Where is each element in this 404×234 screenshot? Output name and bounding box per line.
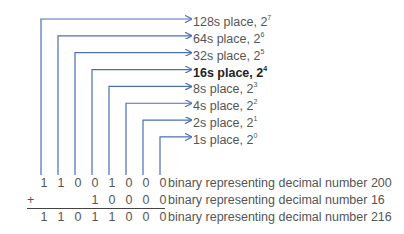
connector-arrow — [92, 70, 191, 175]
place-label: 1s place, 20 — [193, 130, 257, 147]
place-name: 2s place, 2 — [193, 116, 253, 130]
binary-digit: 0 — [90, 176, 100, 190]
binary-digit: 1 — [107, 176, 117, 190]
place-name: 1s place, 2 — [193, 133, 253, 147]
connector-arrow — [41, 19, 191, 175]
place-label: 2s place, 21 — [193, 113, 257, 130]
binary-digit: 0 — [158, 193, 168, 207]
binary-digit: 1 — [39, 176, 49, 190]
place-exponent: 0 — [253, 132, 257, 139]
binary-digit: 0 — [124, 210, 134, 224]
binary-digit: 1 — [56, 176, 66, 190]
place-name: 128s place, 2 — [193, 15, 267, 29]
plus-sign: + — [27, 193, 34, 207]
binary-digit: 0 — [124, 176, 134, 190]
binary-digit: 1 — [90, 193, 100, 207]
binary-digit: 0 — [73, 210, 83, 224]
connector-arrow — [58, 36, 191, 175]
binary-digit: 0 — [124, 193, 134, 207]
row-description: binary representing decimal number 200 — [168, 176, 392, 190]
binary-digit: 0 — [107, 193, 117, 207]
place-name: 32s place, 2 — [193, 49, 260, 63]
connector-arrow — [160, 137, 191, 175]
row-description: binary representing decimal number 216 — [168, 210, 392, 224]
binary-digit: 0 — [73, 176, 83, 190]
connector-arrow — [109, 86, 191, 175]
place-name: 8s place, 2 — [193, 83, 253, 97]
place-label: 64s place, 26 — [193, 29, 264, 46]
connector-arrow — [126, 103, 191, 175]
place-name: 4s place, 2 — [193, 99, 253, 113]
binary-digit: 0 — [141, 176, 151, 190]
place-label: 16s place, 24 — [193, 63, 267, 80]
place-exponent: 3 — [253, 81, 257, 88]
place-label: 8s place, 23 — [193, 79, 257, 96]
binary-digit: 1 — [39, 210, 49, 224]
binary-digit: 0 — [158, 176, 168, 190]
place-name: 16s place, 2 — [193, 66, 263, 80]
place-name: 64s place, 2 — [193, 32, 260, 46]
place-label: 32s place, 25 — [193, 46, 264, 63]
place-exponent: 6 — [260, 31, 264, 38]
binary-digit: 1 — [56, 210, 66, 224]
row-description: binary representing decimal number 16 — [168, 193, 385, 207]
binary-digit: 0 — [158, 210, 168, 224]
connector-arrow — [143, 120, 191, 175]
binary-digit: 1 — [90, 210, 100, 224]
place-exponent: 4 — [263, 65, 267, 72]
place-exponent: 7 — [267, 14, 271, 21]
place-exponent: 1 — [253, 115, 257, 122]
place-label: 4s place, 22 — [193, 96, 257, 113]
place-label: 128s place, 27 — [193, 12, 271, 29]
place-exponent: 5 — [260, 48, 264, 55]
binary-digit: 0 — [141, 193, 151, 207]
place-exponent: 2 — [253, 98, 257, 105]
binary-digit: 1 — [107, 210, 117, 224]
sum-rule — [27, 208, 165, 209]
binary-digit: 0 — [141, 210, 151, 224]
